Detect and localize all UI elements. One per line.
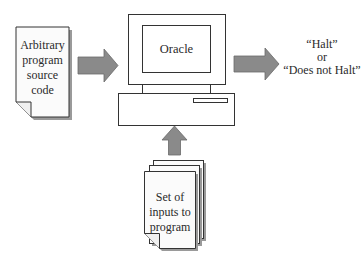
arrow-up-icon	[162, 126, 187, 155]
arrow-right-icon	[78, 49, 118, 82]
oracle-label: Oracle	[142, 42, 211, 57]
page-fold-icon	[16, 102, 31, 117]
inputs-line: program	[144, 220, 196, 235]
output-line-does-not-halt: “Does not Halt”	[282, 64, 362, 77]
source-line: Arbitrary	[16, 38, 69, 53]
inputs-line: inputs to	[144, 205, 196, 220]
inputs-label: Set of inputs to program	[144, 190, 196, 235]
source-line: program	[16, 53, 69, 68]
source-code-label: Arbitrary program source code	[16, 38, 69, 98]
source-line: source	[16, 68, 69, 83]
computer-icon	[119, 15, 235, 126]
page-fold-icon	[145, 234, 160, 249]
disk-slot	[194, 99, 228, 103]
arrow-right-output-icon	[234, 48, 279, 80]
output-label: “Halt” or “Does not Halt”	[282, 38, 362, 77]
source-line: code	[16, 83, 69, 98]
inputs-line: Set of	[144, 190, 196, 205]
